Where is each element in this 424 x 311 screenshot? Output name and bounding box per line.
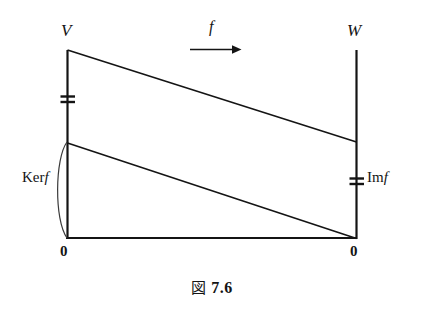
lower-diagonal-line	[68, 143, 357, 239]
kernel-brace-icon	[58, 142, 67, 238]
map-arrow-icon	[190, 45, 242, 54]
figure-caption: 図 7.6	[0, 276, 424, 297]
figure-container: V W f Kerf Imf 0 0 図 7.6	[0, 0, 424, 311]
image-prefix-text: Im	[367, 169, 384, 185]
map-f-label: f	[209, 19, 213, 35]
space-v-label: V	[61, 22, 71, 39]
image-label: Imf	[367, 170, 388, 185]
zero-left-label: 0	[60, 244, 68, 259]
image-fn-text: f	[384, 169, 388, 185]
linear-map-diagram	[0, 0, 424, 311]
kernel-label: Kerf	[22, 170, 49, 185]
space-w-label: W	[347, 22, 361, 39]
zero-right-label: 0	[350, 244, 358, 259]
caption-kanji-text: 図	[191, 279, 207, 297]
caption-number-text: 7.6	[211, 279, 233, 296]
top-diagonal-line	[68, 50, 357, 142]
kernel-prefix-text: Ker	[22, 169, 45, 185]
kernel-fn-text: f	[45, 169, 49, 185]
